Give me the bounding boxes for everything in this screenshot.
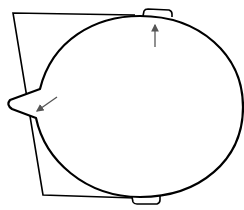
head-diagram (0, 0, 244, 210)
